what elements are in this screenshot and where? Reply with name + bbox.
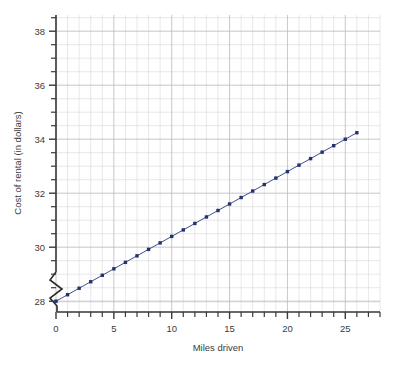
data-point	[239, 196, 242, 199]
x-axis-title: Miles driven	[193, 342, 244, 353]
data-point	[112, 267, 115, 270]
y-tick-label: 34	[34, 134, 45, 145]
x-axis-tick-labels: 0510152025	[53, 323, 350, 334]
data-point	[332, 144, 335, 147]
y-axis-ticks	[49, 18, 56, 302]
data-point	[251, 189, 254, 192]
y-tick-label: 30	[34, 242, 45, 253]
data-point	[274, 176, 277, 179]
data-point	[228, 202, 231, 205]
data-point	[344, 138, 347, 141]
data-point	[66, 293, 69, 296]
x-tick-label: 20	[282, 323, 293, 334]
data-point	[309, 157, 312, 160]
data-point	[135, 254, 138, 257]
x-tick-label: 25	[340, 323, 351, 334]
data-point	[297, 163, 300, 166]
data-point	[101, 274, 104, 277]
data-point	[170, 235, 173, 238]
data-point	[54, 300, 57, 303]
data-point	[205, 215, 208, 218]
data-point	[124, 261, 127, 264]
y-tick-label: 38	[34, 26, 45, 37]
data-point	[320, 150, 323, 153]
y-axis-tick-labels: 283032343638	[34, 26, 45, 307]
y-tick-label: 28	[34, 296, 45, 307]
x-tick-label: 15	[224, 323, 235, 334]
x-tick-label: 0	[53, 323, 58, 334]
rental-cost-line-chart: 283032343638 0510152025 Miles driven Cos…	[0, 0, 399, 369]
data-point	[286, 170, 289, 173]
data-point	[158, 241, 161, 244]
data-point	[89, 280, 92, 283]
data-point	[147, 248, 150, 251]
x-axis-ticks	[56, 312, 380, 319]
x-tick-label: 5	[111, 323, 116, 334]
data-point	[216, 209, 219, 212]
data-point	[182, 228, 185, 231]
data-point	[263, 183, 266, 186]
data-point	[193, 222, 196, 225]
data-point	[355, 131, 358, 134]
x-tick-label: 10	[166, 323, 177, 334]
y-axis-title: Cost of rental (in dollars)	[12, 111, 23, 214]
y-tick-label: 36	[34, 80, 45, 91]
data-point	[77, 287, 80, 290]
y-tick-label: 32	[34, 188, 45, 199]
chart-figure: 283032343638 0510152025 Miles driven Cos…	[0, 0, 399, 369]
